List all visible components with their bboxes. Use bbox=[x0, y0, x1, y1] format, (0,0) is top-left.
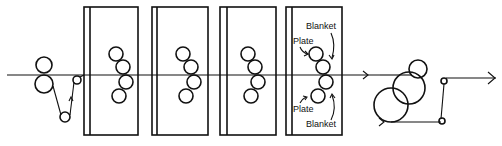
web-down-to-dancer bbox=[53, 86, 61, 115]
printing-unit-1 bbox=[84, 7, 138, 135]
infeed-rollers bbox=[35, 57, 81, 122]
arrowhead-top-blanket bbox=[329, 55, 334, 59]
blanket-cylinder-bottom bbox=[119, 75, 133, 89]
infeed-roller-bottom bbox=[35, 75, 53, 93]
guide-roller bbox=[73, 76, 81, 84]
chill-roller-large bbox=[374, 88, 408, 122]
plate-cylinder-top bbox=[309, 47, 323, 61]
guide-roller-bottom bbox=[439, 118, 445, 124]
blanket-cylinder-bottom bbox=[251, 75, 265, 89]
printing-unit-3 bbox=[220, 7, 276, 135]
plate-cylinder-bottom bbox=[179, 89, 193, 103]
plate-cylinder-top bbox=[241, 47, 255, 61]
plate-cylinder-top bbox=[176, 47, 190, 61]
printing-unit-2 bbox=[152, 7, 208, 135]
web-rise-line bbox=[441, 84, 444, 119]
arrow-top-blanket-icon bbox=[331, 33, 334, 58]
plate-cylinder-top bbox=[109, 47, 123, 61]
plate-cylinder-bottom bbox=[112, 89, 126, 103]
blanket-cylinder-bottom bbox=[187, 75, 201, 89]
printing-unit-4: Blanket Plate Plate Blanket bbox=[286, 7, 342, 135]
unit-frame bbox=[220, 7, 276, 135]
label-bottom-blanket: Blanket bbox=[306, 119, 337, 129]
plate-cylinder-bottom bbox=[244, 89, 258, 103]
web-offset-press-diagram: Blanket Plate Plate Blanket bbox=[0, 0, 502, 146]
blanket-cylinder-top bbox=[248, 60, 262, 74]
guide-roller-top bbox=[441, 78, 447, 84]
label-top-blanket: Blanket bbox=[306, 21, 337, 31]
blanket-cylinder-top bbox=[184, 60, 198, 74]
chill-roller-middle bbox=[393, 72, 425, 104]
unit-frame bbox=[152, 7, 208, 135]
plate-cylinder-bottom bbox=[311, 89, 325, 103]
unit-frame bbox=[84, 7, 138, 135]
chill-roll-section bbox=[374, 60, 447, 124]
arrow-bottom-blanket-icon bbox=[331, 95, 334, 120]
label-bottom-plate: Plate bbox=[293, 104, 314, 114]
infeed-roller-top bbox=[36, 57, 52, 73]
arrow-top-plate-icon bbox=[300, 47, 307, 54]
blanket-cylinder-bottom bbox=[319, 75, 333, 89]
blanket-cylinder-top bbox=[316, 60, 330, 74]
label-top-plate: Plate bbox=[293, 36, 314, 46]
blanket-cylinder-top bbox=[116, 60, 130, 74]
dancer-roller bbox=[60, 112, 70, 122]
